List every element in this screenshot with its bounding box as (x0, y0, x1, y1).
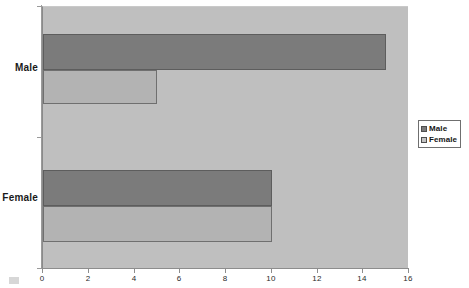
x-axis-tick-label: 2 (76, 274, 100, 283)
plot-area (42, 6, 408, 268)
x-axis-tick (225, 268, 226, 273)
x-axis-tick-label: 14 (350, 274, 374, 283)
x-axis-tick-label: 0 (30, 274, 54, 283)
legend-swatch-icon-female (421, 137, 427, 143)
legend-item-male[interactable]: Male (421, 123, 457, 134)
y-axis-label-male: Male (2, 62, 38, 73)
legend-label-male: Male (429, 124, 447, 133)
x-axis-tick (134, 268, 135, 273)
x-axis-tick (88, 268, 89, 273)
x-axis-tick-label: 8 (213, 274, 237, 283)
y-axis-tick (37, 6, 42, 7)
x-axis-tick (42, 268, 43, 273)
x-axis-tick (317, 268, 318, 273)
x-axis-tick-label: 12 (305, 274, 329, 283)
x-axis-tick-label: 10 (259, 274, 283, 283)
x-axis-tick (408, 268, 409, 273)
x-axis-tick-label: 4 (122, 274, 146, 283)
x-axis-tick (271, 268, 272, 273)
x-axis-tick-label: 6 (167, 274, 191, 283)
bar-male-series-female[interactable] (43, 70, 157, 104)
legend-swatch-icon-male (421, 126, 427, 132)
y-axis-tick (37, 137, 42, 138)
y-axis-label-female: Female (0, 192, 38, 203)
legend: Male Female (418, 120, 461, 148)
bar-female-series-female[interactable] (43, 206, 272, 242)
x-axis-tick (362, 268, 363, 273)
x-axis-tick (179, 268, 180, 273)
bar-female-series-male[interactable] (43, 170, 272, 206)
bar-chart: Male Female 0246810121416 Male Female (0, 0, 469, 288)
legend-label-female: Female (429, 135, 457, 144)
x-axis-tick-label: 16 (396, 274, 420, 283)
scan-artifact (9, 277, 19, 284)
legend-item-female[interactable]: Female (421, 134, 457, 145)
bar-male-series-male[interactable] (43, 34, 386, 70)
